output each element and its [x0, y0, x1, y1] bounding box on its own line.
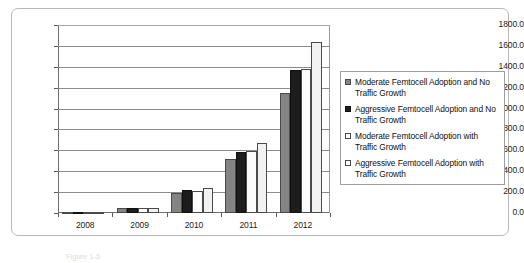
gridline	[58, 67, 330, 68]
bar	[127, 208, 138, 213]
legend-swatch-icon	[345, 160, 351, 166]
bar	[290, 70, 301, 213]
bar	[171, 193, 182, 213]
figure-caption: Figure 1-5	[66, 252, 396, 261]
y-tick-label: 1400.0	[472, 62, 524, 71]
y-tick-mark	[54, 25, 58, 26]
bar	[62, 212, 73, 214]
gridline	[58, 46, 330, 47]
x-tick-mark	[221, 213, 222, 217]
legend-item[interactable]: Aggressive Femtocell Adoption with Traff…	[345, 158, 500, 179]
legend-label: Moderate Femtocell Adoption with Traffic…	[355, 131, 500, 152]
bar	[257, 143, 268, 213]
x-tick-label: 2009	[117, 220, 163, 230]
bar	[94, 212, 105, 214]
bar	[225, 159, 236, 213]
x-tick-label: 2008	[62, 220, 108, 230]
bar	[83, 212, 94, 214]
y-tick-mark	[54, 88, 58, 89]
bar	[138, 208, 149, 213]
bar	[280, 93, 291, 213]
x-tick-mark	[58, 213, 59, 217]
y-tick-mark	[54, 129, 58, 130]
y-tick-mark	[54, 150, 58, 151]
x-tick-label: 2011	[225, 220, 271, 230]
bar	[311, 42, 322, 213]
gridline	[58, 88, 330, 89]
bar-chart: 1800.01600.01400.01200.01000.0800.0600.0…	[0, 0, 524, 263]
y-tick-mark	[54, 171, 58, 172]
bar	[246, 151, 257, 213]
x-tick-mark	[112, 213, 113, 217]
y-tick-label: 1600.0	[472, 41, 524, 50]
y-tick-label: 1800.0	[472, 20, 524, 29]
chart-legend: Moderate Femtocell Adoption and No Traff…	[340, 71, 505, 185]
x-tick-mark	[330, 213, 331, 217]
legend-label: Moderate Femtocell Adoption and No Traff…	[355, 77, 500, 98]
y-tick-label: 200.0	[472, 187, 524, 196]
bar	[182, 190, 193, 213]
gridline	[58, 25, 330, 26]
legend-item[interactable]: Moderate Femtocell Adoption with Traffic…	[345, 131, 500, 152]
x-tick-mark	[167, 213, 168, 217]
y-tick-mark	[54, 67, 58, 68]
legend-label: Aggressive Femtocell Adoption and No Tra…	[355, 104, 500, 125]
bar	[148, 208, 159, 213]
legend-item[interactable]: Moderate Femtocell Adoption and No Traff…	[345, 77, 500, 98]
bar	[301, 69, 312, 213]
legend-swatch-icon	[345, 133, 351, 139]
legend-swatch-icon	[345, 79, 351, 85]
y-tick-mark	[54, 46, 58, 47]
legend-swatch-icon	[345, 106, 351, 112]
bar	[236, 152, 247, 213]
bar	[73, 212, 84, 214]
x-tick-label: 2012	[280, 220, 326, 230]
y-tick-label: 0.0	[472, 208, 524, 217]
x-tick-mark	[276, 213, 277, 217]
legend-item[interactable]: Aggressive Femtocell Adoption and No Tra…	[345, 104, 500, 125]
plot-right-edge	[329, 25, 330, 213]
y-tick-mark	[54, 109, 58, 110]
legend-label: Aggressive Femtocell Adoption with Traff…	[355, 158, 500, 179]
x-tick-label: 2010	[171, 220, 217, 230]
bar	[203, 188, 214, 213]
bar	[192, 191, 203, 213]
y-tick-mark	[54, 192, 58, 193]
bar	[117, 208, 128, 213]
